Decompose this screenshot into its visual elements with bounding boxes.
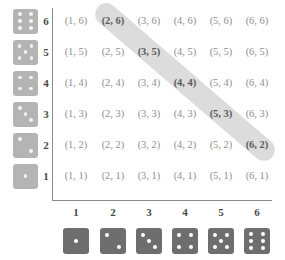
die-pip — [153, 245, 157, 249]
y-axis-label-3: 3 — [40, 108, 52, 120]
die-pip — [189, 245, 193, 249]
grid-cell-6-2: (6, 2) — [239, 139, 275, 150]
die-face-2-icon — [100, 228, 126, 254]
die-pip — [18, 44, 22, 48]
die-pip — [24, 174, 28, 178]
grid-cell-3-2: (3, 2) — [131, 139, 167, 150]
die-pip — [18, 56, 22, 60]
die-face-3-icon — [136, 228, 162, 254]
die-pip — [141, 233, 145, 237]
grid-cell-3-1: (3, 1) — [131, 170, 167, 181]
grid-cell-4-6: (4, 6) — [167, 15, 203, 26]
grid-cell-2-4: (2, 4) — [95, 77, 131, 88]
die-pip — [29, 87, 33, 91]
die-face-1-icon — [63, 228, 89, 254]
die-pip — [29, 149, 33, 153]
x-axis-label-6: 6 — [239, 206, 275, 218]
die-face-1-icon — [13, 164, 38, 189]
x-axis-label-1: 1 — [58, 206, 94, 218]
y-axis-label-1: 1 — [40, 170, 52, 182]
die-pip — [29, 19, 33, 23]
grid-cell-3-5: (3, 5) — [131, 46, 167, 57]
die-pip — [261, 232, 265, 236]
x-axis-label-4: 4 — [167, 206, 203, 218]
grid-cell-5-6: (5, 6) — [203, 15, 239, 26]
x-axis-label-2: 2 — [95, 206, 131, 218]
grid-cell-1-3: (1, 3) — [58, 108, 94, 119]
die-pip — [74, 239, 78, 243]
die-pip — [177, 245, 181, 249]
die-pip — [29, 12, 33, 16]
grid-cell-6-4: (6, 4) — [239, 77, 275, 88]
die-face-5-icon — [13, 40, 38, 65]
grid-cell-2-1: (2, 1) — [95, 170, 131, 181]
die-pip — [117, 245, 121, 249]
die-pip — [18, 12, 22, 16]
die-pip — [18, 106, 22, 110]
grid-cell-1-5: (1, 5) — [58, 46, 94, 57]
die-pip — [261, 239, 265, 243]
y-axis-label-2: 2 — [40, 139, 52, 151]
die-pip — [18, 137, 22, 141]
grid-cell-5-3: (5, 3) — [203, 108, 239, 119]
die-pip — [24, 112, 28, 116]
die-pip — [18, 26, 22, 30]
grid-cell-5-4: (5, 4) — [203, 77, 239, 88]
grid-cell-4-3: (4, 3) — [167, 108, 203, 119]
x-axis-label-5: 5 — [203, 206, 239, 218]
grid-cell-6-1: (6, 1) — [239, 170, 275, 181]
grid-cell-3-3: (3, 3) — [131, 108, 167, 119]
die-pip — [225, 245, 229, 249]
grid-cell-4-4: (4, 4) — [167, 77, 203, 88]
grid-cell-2-5: (2, 5) — [95, 46, 131, 57]
grid-cell-6-6: (6, 6) — [239, 15, 275, 26]
die-pip — [24, 50, 28, 54]
dice-sample-space-figure: 654321 123456 (1, 6)(2, 6)(3, 6)(4, 6)(5… — [0, 0, 285, 260]
die-pip — [30, 44, 34, 48]
y-axis-label-4: 4 — [40, 77, 52, 89]
grid-cell-3-4: (3, 4) — [131, 77, 167, 88]
die-face-3-icon — [13, 102, 38, 127]
grid-cell-6-3: (6, 3) — [239, 108, 275, 119]
grid-cell-5-5: (5, 5) — [203, 46, 239, 57]
die-pip — [29, 76, 33, 80]
grid-cell-2-3: (2, 3) — [95, 108, 131, 119]
die-pip — [29, 26, 33, 30]
y-axis-label-6: 6 — [40, 15, 52, 27]
die-pip — [18, 87, 22, 91]
grid-cell-4-1: (4, 1) — [167, 170, 203, 181]
die-pip — [30, 56, 34, 60]
grid-cell-3-6: (3, 6) — [131, 15, 167, 26]
die-pip — [219, 239, 223, 243]
grid-cell-5-2: (5, 2) — [203, 139, 239, 150]
grid-cell-1-4: (1, 4) — [58, 77, 94, 88]
die-pip — [29, 118, 33, 122]
die-pip — [105, 233, 109, 237]
die-face-6-icon — [13, 9, 38, 34]
die-pip — [147, 239, 151, 243]
die-face-4-icon — [172, 228, 198, 254]
die-pip — [225, 233, 229, 237]
die-pip — [18, 76, 22, 80]
die-pip — [18, 19, 22, 23]
die-pip — [213, 245, 217, 249]
grid-cell-1-1: (1, 1) — [58, 170, 94, 181]
grid-cell-2-2: (2, 2) — [95, 139, 131, 150]
die-pip — [189, 233, 193, 237]
grid-cell-6-5: (6, 5) — [239, 46, 275, 57]
grid-cell-1-6: (1, 6) — [58, 15, 94, 26]
x-axis-line — [52, 200, 272, 201]
grid-cell-1-2: (1, 2) — [58, 139, 94, 150]
die-pip — [261, 246, 265, 250]
die-face-6-icon — [244, 228, 270, 254]
die-pip — [249, 232, 253, 236]
x-axis-label-3: 3 — [131, 206, 167, 218]
die-face-5-icon — [208, 228, 234, 254]
grid-cell-4-2: (4, 2) — [167, 139, 203, 150]
die-face-2-icon — [13, 133, 38, 158]
die-pip — [249, 239, 253, 243]
die-pip — [213, 233, 217, 237]
y-axis-label-5: 5 — [40, 46, 52, 58]
grid-cell-5-1: (5, 1) — [203, 170, 239, 181]
grid-cell-2-6: (2, 6) — [95, 15, 131, 26]
